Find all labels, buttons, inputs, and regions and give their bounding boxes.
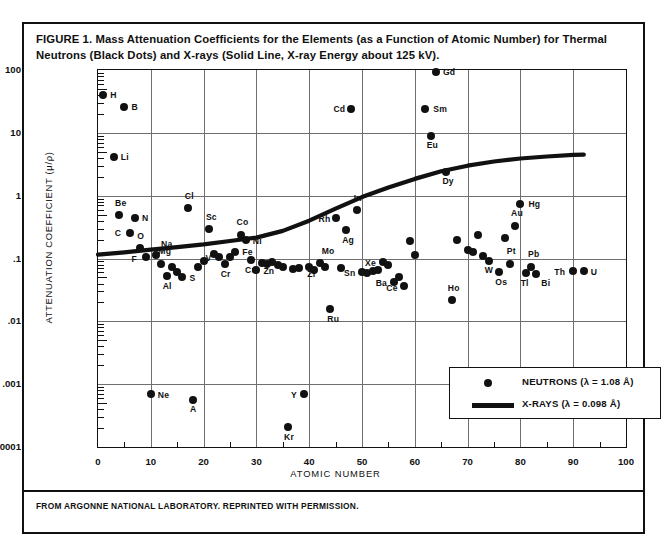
data-point	[411, 251, 419, 259]
data-point-label: Tl	[521, 278, 529, 288]
data-point	[279, 263, 287, 271]
data-point	[427, 132, 435, 140]
data-point	[511, 222, 519, 230]
data-point-label: Sn	[344, 268, 355, 278]
data-point	[580, 267, 588, 275]
y-tick-label: .01	[0, 315, 21, 326]
y-tick-label: 10	[0, 127, 21, 138]
data-point	[506, 260, 514, 268]
x-tick-label: 80	[500, 456, 540, 467]
data-point-label: W	[485, 265, 493, 275]
data-point	[200, 257, 208, 265]
data-point	[295, 264, 303, 272]
x-tick-label: 70	[448, 456, 488, 467]
data-point-label: Os	[495, 277, 507, 287]
data-point	[300, 390, 308, 398]
data-point-label: A	[190, 404, 196, 414]
data-point-label: Au	[511, 208, 523, 218]
x-tick-label: 40	[289, 456, 329, 467]
data-point	[474, 231, 482, 239]
data-point	[384, 261, 392, 269]
source-note: FROM ARGONNE NATIONAL LABORATORY. REPRIN…	[36, 501, 359, 511]
x-tick-label: 50	[342, 456, 382, 467]
data-point	[495, 268, 503, 276]
legend-dot-symbol	[472, 372, 516, 394]
data-point	[353, 206, 361, 214]
data-point-label: In	[354, 193, 362, 203]
data-point-label: B	[131, 102, 137, 112]
data-point-label: Be	[115, 198, 126, 208]
y-tick-label: .1	[0, 253, 21, 264]
data-point-label: Li	[121, 152, 129, 162]
x-tick-label: 100	[606, 456, 646, 467]
data-point-label: Sc	[206, 212, 217, 222]
data-point-label: Y	[291, 390, 297, 400]
x-tick-label: 30	[236, 456, 276, 467]
legend-row-xrays: X-RAYS (λ = 0.098 Å)	[450, 394, 660, 416]
data-point-label: Kr	[284, 432, 294, 442]
plot-wrapper: ATTENUATION COEFFICIENT (μ/ρ) ATOMIC NUM…	[24, 64, 647, 488]
data-point-label: Mg	[158, 246, 171, 256]
x-axis-label: ATOMIC NUMBER	[24, 468, 647, 479]
data-point-label: Rh	[319, 214, 331, 224]
legend-label-neutrons: NEUTRONS (λ = 1.08 Å)	[522, 376, 634, 387]
data-point	[284, 423, 292, 431]
data-point-label: Sm	[433, 104, 447, 114]
data-point-label: Al	[163, 281, 172, 291]
data-point	[448, 296, 456, 304]
data-point	[374, 266, 382, 274]
data-point-label: H	[110, 90, 116, 100]
data-point	[226, 253, 234, 261]
plot-area: .0001.001.01.111010001020304050607080901…	[97, 69, 627, 448]
x-tick-label: 90	[553, 456, 593, 467]
data-point	[147, 390, 155, 398]
data-point-label: Ne	[158, 390, 169, 400]
x-tick-label: 60	[395, 456, 435, 467]
data-point	[173, 268, 181, 276]
figure-caption: FIGURE 1. Mass Attenuation Coefficients …	[36, 32, 632, 63]
data-point-label: Cr	[221, 269, 231, 279]
y-tick-label: 100	[0, 64, 21, 75]
figure-frame: FIGURE 1. Mass Attenuation Coefficients …	[22, 22, 645, 534]
data-point-label: Bi	[541, 278, 550, 288]
data-point-label: Pt	[507, 246, 516, 256]
data-point-label: Gd	[443, 67, 455, 77]
data-point-label: Th	[554, 267, 565, 277]
y-tick-label: .001	[0, 378, 21, 389]
data-point-label: C	[115, 228, 121, 238]
data-point-label: Ag	[342, 235, 354, 245]
footer-divider	[24, 490, 643, 492]
data-point-label: Co	[237, 217, 249, 227]
data-point	[221, 260, 229, 268]
data-point-label: Dy	[442, 176, 453, 186]
data-point-label: Ni	[253, 236, 262, 246]
data-point	[406, 237, 414, 245]
y-tick-label: 1	[0, 190, 21, 201]
data-point-label: Pb	[528, 249, 539, 259]
data-point-label: F	[132, 254, 137, 264]
data-point-label: U	[591, 267, 597, 277]
data-point	[210, 250, 218, 258]
legend-label-xrays: X-RAYS (λ = 0.098 Å)	[522, 398, 620, 409]
data-point	[142, 253, 150, 261]
data-point-label: O	[137, 231, 144, 241]
data-point	[569, 267, 577, 275]
legend-row-neutrons: NEUTRONS (λ = 1.08 Å)	[450, 372, 660, 394]
legend-line-symbol	[472, 394, 516, 416]
x-tick-label: 20	[184, 456, 224, 467]
data-point	[501, 234, 509, 242]
data-point-label: Ho	[448, 283, 460, 293]
data-point	[205, 225, 213, 233]
data-point	[110, 153, 118, 161]
data-point	[115, 211, 123, 219]
data-point	[184, 204, 192, 212]
legend-box: NEUTRONS (λ = 1.08 Å) X-RAYS (λ = 0.098 …	[449, 367, 661, 419]
y-tick-label: .0001	[0, 441, 21, 452]
data-point-label: Hg	[528, 199, 540, 209]
data-point	[131, 214, 139, 222]
data-point-label: N	[142, 213, 148, 223]
data-point-label: Ce	[386, 283, 397, 293]
data-point	[332, 214, 340, 222]
data-point-label: Mo	[322, 246, 335, 256]
data-point-label: S	[189, 273, 195, 283]
